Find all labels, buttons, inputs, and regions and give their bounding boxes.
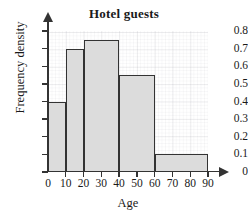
y-tick-label: 0.8 <box>208 25 248 37</box>
histogram-bar <box>48 102 66 173</box>
y-tick-mark <box>42 101 48 102</box>
y-tick-mark <box>42 83 48 84</box>
y-tick-label: 0.4 <box>208 96 248 108</box>
plot-area <box>48 31 208 172</box>
y-tick-mark <box>42 118 48 119</box>
y-axis-arrow-icon <box>43 12 53 22</box>
y-tick-label: 0.5 <box>208 78 248 90</box>
histogram-chart: Hotel guests 00.10.20.30.40.50.60.70.8 0… <box>0 0 248 223</box>
y-tick-label: 0.1 <box>208 148 248 160</box>
chart-title: Hotel guests <box>0 6 248 22</box>
y-tick-mark <box>42 48 48 49</box>
bar-series <box>48 31 208 172</box>
y-tick-label: 0.2 <box>208 131 248 143</box>
y-tick-label: 0.3 <box>208 113 248 125</box>
histogram-bar <box>66 49 84 172</box>
histogram-bar <box>119 75 155 172</box>
x-tick-label: 90 <box>195 178 221 190</box>
y-tick-label: 0.7 <box>208 43 248 55</box>
y-tick-mark <box>42 136 48 137</box>
y-axis-label: Frequency density <box>13 0 28 143</box>
y-tick-label: 0.6 <box>208 60 248 72</box>
histogram-bar <box>84 40 120 172</box>
x-axis-line <box>48 171 220 173</box>
y-tick-mark <box>42 66 48 67</box>
y-axis-line <box>47 20 49 172</box>
y-tick-label: 0 <box>208 166 248 178</box>
x-axis-label: Age <box>48 196 208 211</box>
y-tick-mark <box>42 171 48 172</box>
y-tick-mark <box>42 154 48 155</box>
histogram-bar <box>155 154 208 172</box>
y-tick-mark <box>42 30 48 31</box>
